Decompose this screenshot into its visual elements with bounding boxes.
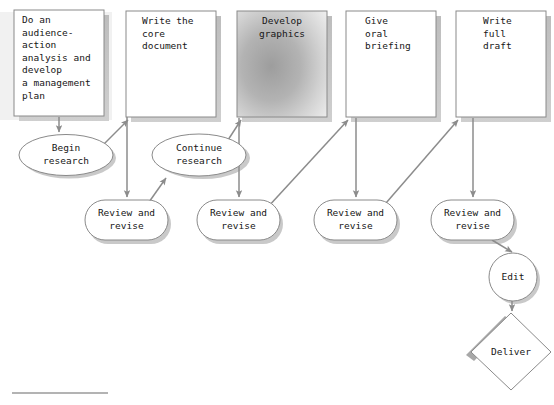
process-box-audience-action-analysis <box>14 10 104 116</box>
process-box-write-full-draft <box>456 11 546 117</box>
diagram-vector-layer <box>0 0 554 405</box>
circle-edit <box>489 253 537 301</box>
review-node-3 <box>314 200 397 240</box>
process-box-give-oral-briefing <box>346 11 436 117</box>
ellipse-begin-research <box>19 135 113 176</box>
review-node-4 <box>431 200 514 240</box>
process-box-write-core-document <box>126 11 216 117</box>
process-box-develop-graphics <box>237 11 327 117</box>
review-node-2 <box>197 200 280 240</box>
diamond-deliver <box>471 313 551 390</box>
review-node-1 <box>85 200 168 240</box>
ellipse-continue-research <box>152 134 246 176</box>
workflow-diagram-canvas: Do an audience- action analysis and deve… <box>0 0 554 405</box>
